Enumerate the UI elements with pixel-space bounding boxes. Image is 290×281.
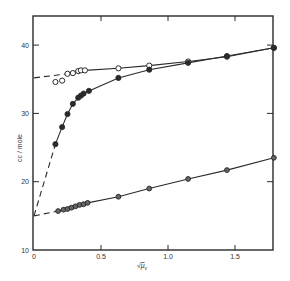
half-circle-marker bbox=[116, 194, 121, 199]
filled-circle-marker bbox=[60, 124, 65, 129]
dashed-extrapolation bbox=[34, 211, 58, 216]
filled-circle-marker bbox=[224, 53, 229, 58]
filled-circle-marker bbox=[147, 67, 152, 72]
x-tick-label: 0 bbox=[32, 253, 36, 260]
x-tick-label: 1.5 bbox=[230, 253, 240, 260]
half-circle-marker bbox=[271, 155, 276, 160]
filled-circle-marker bbox=[70, 101, 75, 106]
plot-frame bbox=[33, 16, 273, 250]
filled-circle-marker bbox=[65, 111, 70, 116]
filled-circle-marker bbox=[53, 142, 58, 147]
open-circle-marker bbox=[70, 71, 75, 76]
half-circle-marker bbox=[186, 177, 191, 182]
half-circle-marker bbox=[56, 209, 61, 214]
half-circle-marker bbox=[225, 168, 230, 173]
y-tick-label: 30 bbox=[21, 110, 29, 117]
x-tick-label: 1.0 bbox=[163, 253, 173, 260]
y-axis-label: cc / mole bbox=[16, 134, 23, 162]
open-circle-marker bbox=[65, 71, 70, 76]
filled-circle-marker bbox=[81, 91, 86, 96]
series-line bbox=[68, 48, 274, 74]
chart: 00.51.01.510203040 cc / mole √μv bbox=[0, 0, 290, 281]
open-circle-marker bbox=[60, 78, 65, 83]
axis-ticks: 00.51.01.510203040 bbox=[21, 16, 273, 260]
x-axis-label: √μv bbox=[137, 262, 148, 271]
y-tick-label: 40 bbox=[21, 42, 29, 49]
filled-circle-marker bbox=[86, 88, 91, 93]
data-points bbox=[53, 45, 277, 213]
open-circle-marker bbox=[53, 79, 58, 84]
half-circle-marker bbox=[85, 200, 90, 205]
half-circle-marker bbox=[147, 186, 152, 191]
open-circle-marker bbox=[82, 68, 87, 73]
dashed-extrapolation bbox=[34, 74, 68, 78]
series-line bbox=[55, 48, 274, 144]
filled-circle-marker bbox=[116, 75, 121, 80]
dashed-extrapolation bbox=[34, 144, 55, 216]
filled-circle-marker bbox=[271, 45, 276, 50]
y-tick-label: 10 bbox=[21, 247, 29, 254]
y-tick-label: 20 bbox=[21, 178, 29, 185]
filled-circle-marker bbox=[186, 60, 191, 65]
plot-border bbox=[33, 16, 273, 250]
open-circle-marker bbox=[116, 66, 121, 71]
x-tick-label: 0.5 bbox=[96, 253, 106, 260]
